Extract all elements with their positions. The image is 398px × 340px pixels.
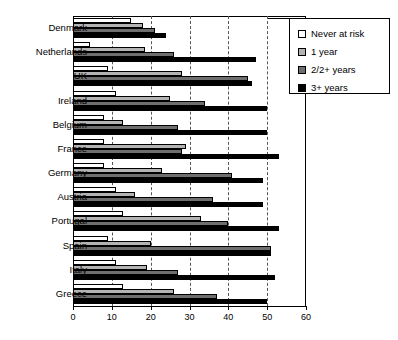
bar — [73, 178, 263, 183]
bar — [73, 226, 279, 231]
legend: Never at risk 1 year 2/2+ years 3+ years — [289, 18, 390, 94]
legend-swatch-1-year — [298, 48, 306, 56]
category-label: Germany — [48, 168, 87, 178]
x-tick-label: 30 — [175, 312, 205, 322]
x-tick-label: 60 — [291, 312, 321, 322]
bar — [73, 57, 256, 62]
category-label: Austria — [57, 192, 87, 202]
x-tick — [112, 306, 113, 310]
category-label: Belgium — [53, 120, 87, 130]
legend-swatch-3plus-years — [298, 84, 306, 92]
bar — [73, 154, 279, 159]
category-label: Netherlands — [36, 47, 87, 57]
x-tick — [73, 306, 74, 310]
x-tick — [267, 306, 268, 310]
category-label: Spain — [63, 241, 87, 251]
legend-item: 3+ years — [298, 79, 389, 96]
bar — [73, 106, 267, 111]
bar — [73, 33, 166, 38]
gridline — [267, 16, 268, 306]
legend-item: 2/2+ years — [298, 61, 389, 78]
x-tick-label: 20 — [136, 312, 166, 322]
category-label: France — [57, 144, 87, 154]
bar — [73, 130, 267, 135]
category-label: Italy — [70, 265, 87, 275]
x-tick-label: 40 — [213, 312, 243, 322]
category-label: Denmark — [48, 23, 87, 33]
legend-item: Never at risk — [298, 25, 389, 42]
bar — [73, 202, 263, 207]
legend-label: Never at risk — [311, 29, 364, 39]
category-label: Greece — [56, 289, 87, 299]
legend-label: 1 year — [311, 47, 337, 57]
legend-swatch-never-at-risk — [298, 30, 306, 38]
bar-chart: 0102030405060 DenmarkNetherlandsUKIrelan… — [0, 0, 398, 340]
legend-label: 2/2+ years — [311, 65, 356, 75]
bar — [73, 299, 267, 304]
x-tick-label: 0 — [58, 312, 88, 322]
bar — [73, 251, 271, 256]
x-tick — [306, 306, 307, 310]
x-tick — [228, 306, 229, 310]
x-tick-label: 10 — [97, 312, 127, 322]
legend-item: 1 year — [298, 43, 389, 60]
legend-connector-line — [268, 18, 290, 19]
x-tick-label: 50 — [252, 312, 282, 322]
x-tick — [190, 306, 191, 310]
legend-swatch-2plus-years — [298, 66, 306, 74]
bar — [73, 81, 252, 86]
x-tick — [151, 306, 152, 310]
plot-area — [73, 16, 306, 306]
category-label: Portugal — [52, 216, 87, 226]
category-label: Ireland — [58, 96, 87, 106]
legend-label: 3+ years — [311, 83, 348, 93]
category-label: UK — [74, 71, 87, 81]
bar — [73, 275, 275, 280]
